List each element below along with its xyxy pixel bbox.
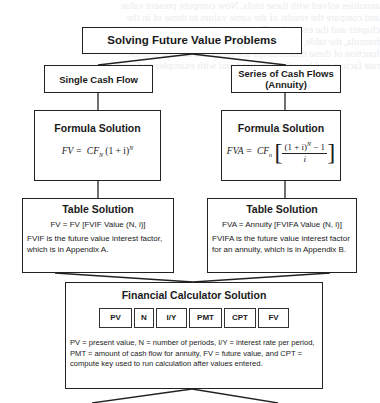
calculator-note: PV = present value, N = number of period… xyxy=(66,338,322,370)
formula-solution-heading: Formula Solution xyxy=(35,122,160,134)
key-iy: I/Y xyxy=(156,308,187,328)
key-pmt: PMT xyxy=(189,308,222,328)
formula-bracketed-fraction: [ (1 + i)N − 1 i ] xyxy=(274,139,335,165)
key-cpt: CPT xyxy=(224,308,256,328)
formula-cf-subscript: N xyxy=(99,152,103,158)
formula-solution-annuity-box: Formula Solution FVA = CFn [ (1 + i)N − … xyxy=(221,110,341,181)
annuity-label-line1: Series of Cash Flows xyxy=(238,68,334,79)
connector-table-right-to-calculator xyxy=(193,273,330,282)
fraction-numerator: (1 + i)N − 1 xyxy=(282,139,327,154)
formula-lhs: FVA = xyxy=(227,146,252,156)
numerator-tail: − 1 xyxy=(311,142,325,152)
single-cash-flow-box: Single Cash Flow xyxy=(44,65,153,93)
table-solution-annuity-box: Table Solution FVA = Annuity [FVIFA Valu… xyxy=(207,198,357,273)
fraction-denominator: i xyxy=(304,154,307,165)
formula-solution-single-box: Formula Solution FV = CFN (1 + i)N xyxy=(34,110,161,181)
connector-calculator-bottom-right xyxy=(192,389,278,403)
table-equation: FV = FV [FVIF Value (N, i)] xyxy=(23,220,173,229)
formula-cf-subscript: n xyxy=(269,152,272,158)
formula-cf: CF xyxy=(87,146,99,156)
calculator-keys-row: PV N I/Y PMT CPT FV xyxy=(66,308,322,328)
connector-title-to-single xyxy=(98,54,192,65)
annuity-box: Series of Cash Flows (Annuity) xyxy=(231,65,341,93)
calculator-heading: Financial Calculator Solution xyxy=(66,289,322,301)
table-solution-single-box: Table Solution FV = FV [FVIF Value (N, i… xyxy=(22,198,174,273)
numerator-base: (1 + i) xyxy=(284,142,307,152)
formula-growth-term: (1 + i) xyxy=(105,146,129,156)
diagram-title: Solving Future Value Problems xyxy=(107,34,276,46)
formula-lhs: FV = xyxy=(62,146,82,156)
formula-cf: CF xyxy=(257,146,269,156)
fv-formula: FV = CFN (1 + i)N xyxy=(35,145,160,158)
key-fv: FV xyxy=(258,308,289,328)
formula-exponent: N xyxy=(129,145,133,151)
key-pv: PV xyxy=(99,308,132,328)
connector-calculator-bottom-left xyxy=(92,389,192,403)
connector-title-to-annuity xyxy=(192,54,286,65)
table-solution-heading: Table Solution xyxy=(208,203,356,215)
financial-calculator-box: Financial Calculator Solution PV N I/Y P… xyxy=(65,282,323,389)
table-solution-heading: Table Solution xyxy=(23,203,173,215)
fraction: (1 + i)N − 1 i xyxy=(282,139,327,165)
formula-solution-heading: Formula Solution xyxy=(222,122,340,134)
annuity-label-line2: (Annuity) xyxy=(265,79,307,90)
connector-table-left-to-calculator xyxy=(55,273,193,282)
left-bracket: [ xyxy=(274,141,282,163)
table-note: FVIFA is the future value interest facto… xyxy=(208,234,356,255)
table-note: FVIF is the future value interest factor… xyxy=(23,234,173,255)
title-box: Solving Future Value Problems xyxy=(82,27,302,54)
right-bracket: ] xyxy=(327,141,335,163)
single-cash-flow-label: Single Cash Flow xyxy=(59,74,138,85)
key-n: N xyxy=(134,308,154,328)
table-equation: FVA = Annuity [FVIFA Value (N, i)] xyxy=(208,220,356,229)
fva-formula: FVA = CFn [ (1 + i)N − 1 i ] xyxy=(222,139,340,165)
